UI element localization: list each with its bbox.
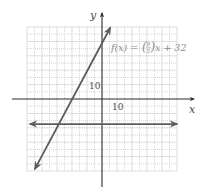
svg-text:x + 32: x + 32 bbox=[155, 42, 186, 53]
svg-text:f(x) =: f(x) = bbox=[110, 42, 138, 53]
x-axis-label: x bbox=[189, 103, 196, 116]
y-axis-label: y bbox=[89, 9, 97, 22]
x-tick-label: 10 bbox=[112, 102, 124, 112]
function-line bbox=[35, 28, 110, 169]
equation-label: f(x) = ( 9 5 ) x + 32 bbox=[110, 40, 186, 54]
function-graph: y x 10 10 f(x) = ( 9 5 ) x + 32 bbox=[0, 0, 205, 191]
y-tick-label: 10 bbox=[89, 81, 101, 91]
